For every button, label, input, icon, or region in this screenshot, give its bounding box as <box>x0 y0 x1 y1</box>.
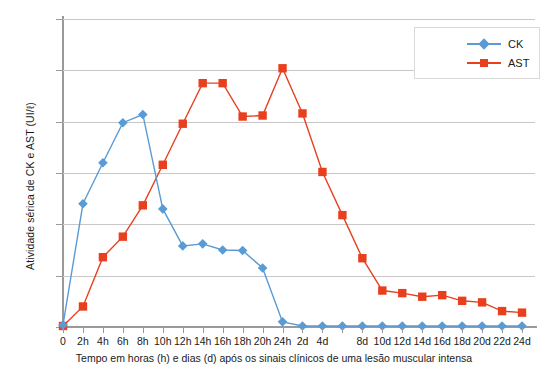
data-point-ast[interactable] <box>478 298 486 306</box>
x-axis-tick-label: 4d <box>317 336 329 347</box>
x-axis-tick-label: 4h <box>97 336 109 347</box>
series-line-ast <box>63 68 522 326</box>
x-axis-title: Tempo em horas (h) e dias (d) após os si… <box>0 352 548 364</box>
legend-label-ck: CK <box>508 38 523 50</box>
x-axis-tick-mark <box>283 328 284 333</box>
legend-item-ck[interactable]: CK <box>415 34 539 53</box>
x-axis-tick-mark <box>163 328 164 333</box>
x-axis-tick-label: 8h <box>137 336 149 347</box>
x-axis-tick-label: 18h <box>234 336 252 347</box>
data-point-ast[interactable] <box>458 297 466 305</box>
data-point-ast[interactable] <box>338 211 346 219</box>
data-point-ck[interactable] <box>178 241 188 251</box>
data-point-ast[interactable] <box>99 253 107 261</box>
series-line-ck <box>63 114 522 325</box>
x-axis-tick-mark <box>502 328 503 333</box>
data-point-ast[interactable] <box>258 111 266 119</box>
data-point-ast[interactable] <box>518 308 526 316</box>
x-axis-tick-label: 2h <box>77 336 89 347</box>
x-axis-tick-mark <box>143 328 144 333</box>
data-point-ast[interactable] <box>318 168 326 176</box>
x-axis-tick-label: 20d <box>473 336 491 347</box>
data-point-ck[interactable] <box>158 204 168 214</box>
x-axis-tick-label: 10d <box>374 336 392 347</box>
x-axis-tick-mark <box>103 328 104 333</box>
data-point-ast[interactable] <box>179 120 187 128</box>
data-point-ck[interactable] <box>98 158 108 168</box>
data-point-ck[interactable] <box>78 199 88 209</box>
x-axis-tick-label: 10h <box>154 336 172 347</box>
x-axis-tick-label: 2d <box>297 336 309 347</box>
data-point-ast[interactable] <box>358 254 366 262</box>
data-point-ck[interactable] <box>218 245 228 255</box>
x-axis-tick-mark <box>482 328 483 333</box>
data-point-ast[interactable] <box>238 112 246 120</box>
x-axis-tick-label: 14d <box>413 336 431 347</box>
data-point-ast[interactable] <box>418 293 426 301</box>
data-point-ast[interactable] <box>218 79 226 87</box>
x-axis-tick-label: 8d <box>357 336 369 347</box>
data-point-ck[interactable] <box>278 317 288 327</box>
data-point-ck[interactable] <box>118 118 128 128</box>
data-point-ck[interactable] <box>138 110 148 120</box>
data-point-ast[interactable] <box>298 109 306 117</box>
y-axis-title: Atividade sérica de CK e AST (UI/ℓ) <box>24 71 36 301</box>
x-axis-tick-label: 16h <box>214 336 232 347</box>
data-point-ast[interactable] <box>79 302 87 310</box>
x-axis-tick-mark <box>402 328 403 333</box>
x-axis-tick-label: 12h <box>174 336 192 347</box>
x-axis-tick-mark <box>322 328 323 333</box>
data-point-ast[interactable] <box>398 289 406 297</box>
legend-swatch-ck <box>467 43 501 45</box>
x-axis-tick-mark <box>83 328 84 333</box>
legend-label-ast: AST <box>508 57 529 69</box>
data-point-ast[interactable] <box>438 291 446 299</box>
x-axis-tick-mark <box>223 328 224 333</box>
x-axis-tick-mark <box>382 328 383 333</box>
data-point-ast[interactable] <box>199 79 207 87</box>
x-axis-tick-mark <box>362 328 363 333</box>
chart-legend: CK AST <box>414 27 540 79</box>
legend-item-ast[interactable]: AST <box>415 53 539 72</box>
x-axis-tick-mark <box>243 328 244 333</box>
data-point-ast[interactable] <box>378 286 386 294</box>
x-axis-tick-label: 18d <box>453 336 471 347</box>
x-axis-tick-label: 22d <box>493 336 511 347</box>
x-axis-tick-mark <box>522 328 523 333</box>
x-axis-tick-mark <box>302 328 303 333</box>
x-axis-tick-mark <box>462 328 463 333</box>
legend-swatch-ast <box>467 62 501 64</box>
x-axis-tick-mark <box>342 328 343 333</box>
x-axis-tick-label: 20h <box>254 336 272 347</box>
x-axis-tick-label: 6h <box>117 336 129 347</box>
x-axis-tick-label: 24d <box>513 336 531 347</box>
x-axis-tick-mark <box>442 328 443 333</box>
data-point-ast[interactable] <box>278 64 286 72</box>
x-axis-tick-mark <box>203 328 204 333</box>
data-point-ast[interactable] <box>119 232 127 240</box>
x-axis-tick-mark <box>183 328 184 333</box>
x-axis-tick-label: 0 <box>60 336 66 347</box>
data-point-ck[interactable] <box>198 239 208 249</box>
data-point-ast[interactable] <box>498 307 506 315</box>
x-axis-tick-mark <box>63 328 64 333</box>
x-axis-tick-mark <box>123 328 124 333</box>
x-axis-tick-label: 12d <box>394 336 412 347</box>
x-axis-tick-mark <box>422 328 423 333</box>
data-point-ast[interactable] <box>159 161 167 169</box>
x-axis-tick-mark <box>263 328 264 333</box>
x-axis-tick-label: 14h <box>194 336 212 347</box>
chart-container: Atividade sérica de CK e AST (UI/ℓ) 0500… <box>0 0 548 376</box>
x-axis-tick-label: 24h <box>274 336 292 347</box>
data-point-ast[interactable] <box>139 201 147 209</box>
x-axis-tick-label: 16d <box>433 336 451 347</box>
